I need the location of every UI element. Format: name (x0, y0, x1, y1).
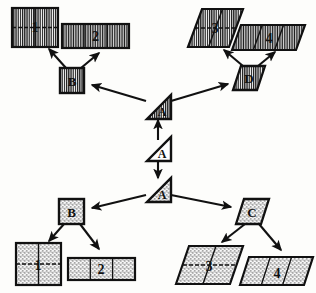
node-b-bottom[interactable]: B (59, 199, 84, 224)
shape-tree-diagram: 1 2 3 4 B D A A A (0, 0, 316, 293)
leaf-stipple-2-label: 2 (98, 262, 105, 277)
edge-b-bottom-to-leaf-1 (49, 224, 64, 241)
node-lower-a[interactable]: A (147, 178, 171, 202)
leaf-stipple-3-label: 3 (206, 259, 213, 274)
leaf-stipple-2[interactable]: 2 (68, 258, 135, 280)
leaf-hatch-2-label: 2 (92, 29, 99, 44)
edge-upper-a-to-d-top (171, 84, 228, 101)
leaf-stipple-3[interactable]: 3 (176, 246, 243, 284)
leaf-hatch-3-label: 3 (212, 21, 219, 36)
edge-upper-a-to-b-top (92, 85, 146, 101)
edge-c-bottom-to-leaf-4 (259, 224, 281, 250)
node-lower-a-label: A (158, 188, 167, 202)
edge-b-top-to-leaf-1 (49, 49, 66, 68)
leaf-stipple-4-label: 4 (274, 266, 281, 281)
leaf-stipple-1[interactable]: 1 (16, 243, 61, 285)
node-b-top[interactable]: B (60, 68, 84, 93)
node-upper-a-label: A (158, 105, 167, 119)
node-root-a[interactable]: A (147, 137, 171, 161)
node-upper-a[interactable]: A (147, 95, 171, 119)
edge-b-top-to-leaf-2 (81, 53, 99, 68)
node-d-top[interactable]: D (233, 66, 265, 90)
edge-lower-a-to-b-bottom (92, 195, 146, 208)
leaf-hatch-1-label: 1 (32, 20, 39, 35)
node-b-top-label: B (68, 74, 77, 89)
node-c-bottom[interactable]: C (236, 199, 269, 224)
leaf-stipple-1-label: 1 (35, 258, 42, 273)
leaf-hatch-4[interactable]: 4 (232, 25, 305, 50)
edge-d-top-to-leaf-3 (224, 50, 243, 66)
leaf-hatch-4-label: 4 (266, 31, 273, 46)
edge-lower-a-to-c-bottom (171, 195, 231, 207)
leaf-stipple-4[interactable]: 4 (240, 257, 313, 285)
node-c-bottom-label: C (247, 205, 256, 220)
edge-d-top-to-leaf-4 (258, 52, 275, 66)
leaf-hatch-1[interactable]: 1 (12, 8, 58, 47)
node-root-a-label: A (158, 147, 167, 161)
node-b-bottom-label: B (67, 205, 76, 220)
edge-b-bottom-to-leaf-2 (80, 224, 99, 249)
node-d-top-label: D (244, 71, 253, 86)
diagram-canvas: 1 2 3 4 B D A A A (0, 0, 316, 293)
edge-c-bottom-to-leaf-3 (222, 224, 245, 242)
leaf-hatch-2[interactable]: 2 (62, 24, 129, 48)
